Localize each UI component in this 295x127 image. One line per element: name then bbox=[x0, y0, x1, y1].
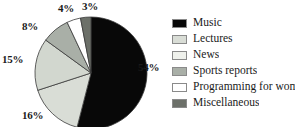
legend-item-label: Lectures bbox=[193, 33, 233, 45]
pie-chart-figure: 54% 16% 15% 8% 4% 3% Music Lectures News… bbox=[0, 0, 295, 127]
legend-swatch-icon bbox=[172, 19, 187, 28]
legend-swatch-icon bbox=[172, 67, 187, 76]
slice-label-miscellaneous: 3% bbox=[82, 1, 98, 12]
legend-item-sports-reports: Sports reports bbox=[172, 63, 295, 79]
legend-swatch-icon bbox=[172, 35, 187, 44]
legend-item-label: Music bbox=[193, 17, 222, 29]
pie-slices-group bbox=[35, 17, 147, 127]
legend-item-music: Music bbox=[172, 15, 295, 31]
legend-swatch-icon bbox=[172, 99, 187, 108]
slice-label-news: 15% bbox=[2, 54, 23, 65]
legend-item-label: Programming for women bbox=[193, 81, 295, 93]
legend-item-programming-for-women: Programming for women bbox=[172, 79, 295, 95]
legend-item-news: News bbox=[172, 47, 295, 63]
slice-label-music: 54% bbox=[138, 62, 159, 73]
slice-label-lectures: 16% bbox=[22, 110, 43, 121]
legend-item-miscellaneous: Miscellaneous bbox=[172, 95, 295, 111]
legend: Music Lectures News Sports reports Progr… bbox=[172, 15, 295, 115]
legend-swatch-icon bbox=[172, 51, 187, 60]
legend-item-lectures: Lectures bbox=[172, 31, 295, 47]
slice-label-sports-reports: 8% bbox=[22, 21, 38, 32]
legend-item-label: Sports reports bbox=[193, 65, 257, 77]
slice-label-programming-for-women: 4% bbox=[58, 3, 74, 14]
legend-swatch-icon bbox=[172, 83, 187, 92]
legend-item-label: Miscellaneous bbox=[193, 97, 259, 109]
legend-item-label: News bbox=[193, 49, 219, 61]
